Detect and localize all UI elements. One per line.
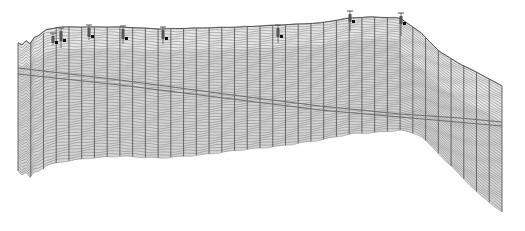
fence-mesh [0,0,525,231]
well-marker-icon [91,35,94,38]
well-marker-icon [403,22,406,25]
well-marker-icon [165,37,168,40]
well-marker-icon [125,37,128,40]
well-marker-icon [63,39,66,42]
diagram-canvas [0,0,525,231]
well-marker-icon [55,41,58,44]
well-marker-icon [280,35,283,38]
well-marker-icon [352,20,355,23]
